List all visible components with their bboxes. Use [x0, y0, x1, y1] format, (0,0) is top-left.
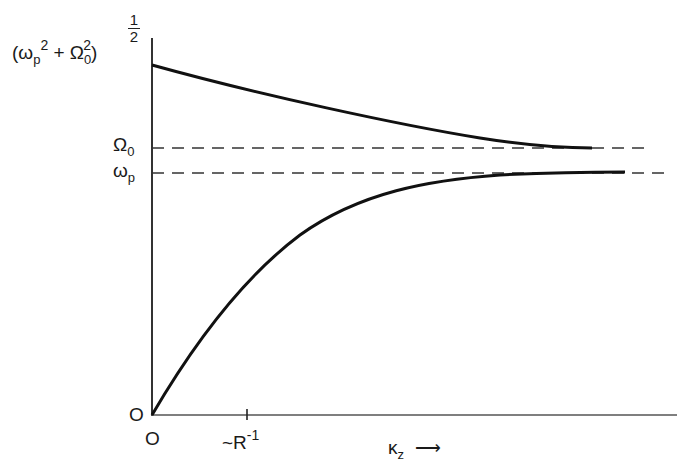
- y-top-label: (ωp2 + Ω02): [12, 42, 97, 64]
- x-origin-label: O: [145, 428, 160, 450]
- exponent-half: 1 2: [128, 12, 140, 45]
- y-origin-label: O: [129, 404, 144, 426]
- dispersion-diagram: [0, 0, 680, 469]
- right-arrow-icon: ⟶: [415, 438, 441, 458]
- lower-branch-curve: [152, 172, 625, 415]
- omega0-label: Ω0: [113, 134, 134, 156]
- omegap-label: ωp: [113, 160, 135, 182]
- x-axis-label: κz ⟶: [388, 437, 441, 459]
- x-tick-label: ~R-1: [222, 432, 259, 454]
- upper-branch-curve: [152, 65, 592, 148]
